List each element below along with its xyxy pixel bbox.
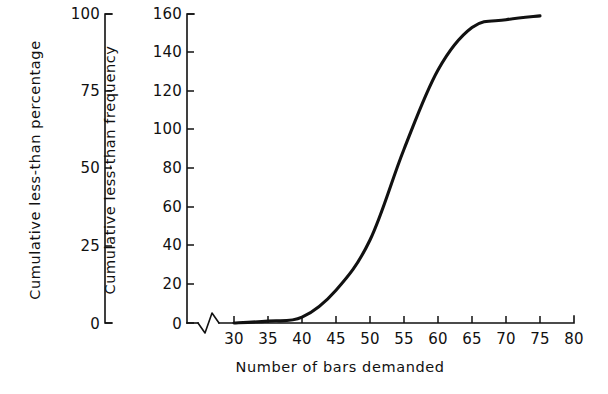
cumulative-frequency-curve	[234, 16, 540, 323]
percentage-ticklabel-100: 100	[71, 5, 100, 23]
percentage-ticklabel-50: 50	[81, 159, 101, 177]
frequency-ticklabel-20: 20	[163, 275, 183, 293]
x-ticklabel-30: 30	[224, 330, 244, 348]
x-ticklabel-45: 45	[326, 330, 346, 348]
percentage-ticklabel-25: 25	[81, 237, 101, 255]
frequency-ticklabel-0: 0	[172, 315, 182, 333]
frequency-ticklabel-120: 120	[153, 82, 182, 100]
x-ticklabel-35: 35	[258, 330, 278, 348]
frequency-ticklabel-160: 160	[153, 5, 182, 23]
x-ticklabel-70: 70	[496, 330, 516, 348]
frequency-ticklabel-100: 100	[153, 120, 182, 138]
x-ticklabel-65: 65	[462, 330, 482, 348]
x-axis-break-zigzag	[198, 313, 219, 333]
frequency-ticklabel-80: 80	[163, 159, 183, 177]
x-ticklabel-50: 50	[360, 330, 380, 348]
percentage-ticklabel-0: 0	[90, 315, 100, 333]
x-ticklabel-60: 60	[428, 330, 448, 348]
x-ticklabel-40: 40	[292, 330, 312, 348]
percentage-axis: 100 75 50 25 0 Cumulative less-than perc…	[27, 5, 112, 333]
frequency-axis: 160 140 120 100 80 60 40 20 0 Cumulative…	[102, 5, 194, 333]
frequency-ticklabel-60: 60	[163, 198, 183, 216]
frequency-ticklabel-40: 40	[163, 236, 183, 254]
percentage-axis-title: Cumulative less-than percentage	[27, 40, 43, 299]
x-ticklabel-75: 75	[530, 330, 550, 348]
chart-figure: 100 75 50 25 0 Cumulative less-than perc…	[0, 0, 608, 394]
x-ticklabel-55: 55	[394, 330, 414, 348]
frequency-axis-title: Cumulative less-than frequency	[102, 46, 118, 295]
cumulative-ogive-chart: 100 75 50 25 0 Cumulative less-than perc…	[0, 0, 608, 394]
x-axis-title: Number of bars demanded	[235, 359, 444, 375]
percentage-ticklabel-75: 75	[81, 82, 101, 100]
frequency-ticklabel-140: 140	[153, 43, 182, 61]
x-ticklabel-80: 80	[564, 330, 584, 348]
